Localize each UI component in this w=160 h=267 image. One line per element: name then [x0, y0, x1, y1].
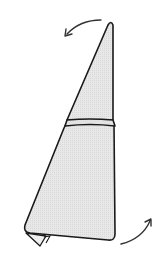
folded-bottom-corner — [26, 233, 46, 246]
top-triangle-panel — [67, 23, 113, 121]
folded-corner-edge — [44, 236, 50, 243]
lower-trapezoid-panel — [25, 124, 115, 240]
diagram-canvas — [0, 0, 160, 267]
fold-diagram — [0, 0, 160, 267]
rotate-left-arrow-icon — [65, 20, 101, 36]
rotate-right-arrow-icon — [121, 219, 151, 244]
horizontal-fold-band — [65, 119, 115, 126]
